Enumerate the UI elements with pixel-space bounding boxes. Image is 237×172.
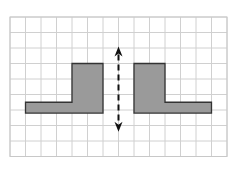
left-l-shape [26, 64, 104, 114]
mirror-line-arrow [115, 46, 123, 131]
symmetry-diagram [0, 0, 237, 172]
right-l-shape [134, 64, 212, 114]
